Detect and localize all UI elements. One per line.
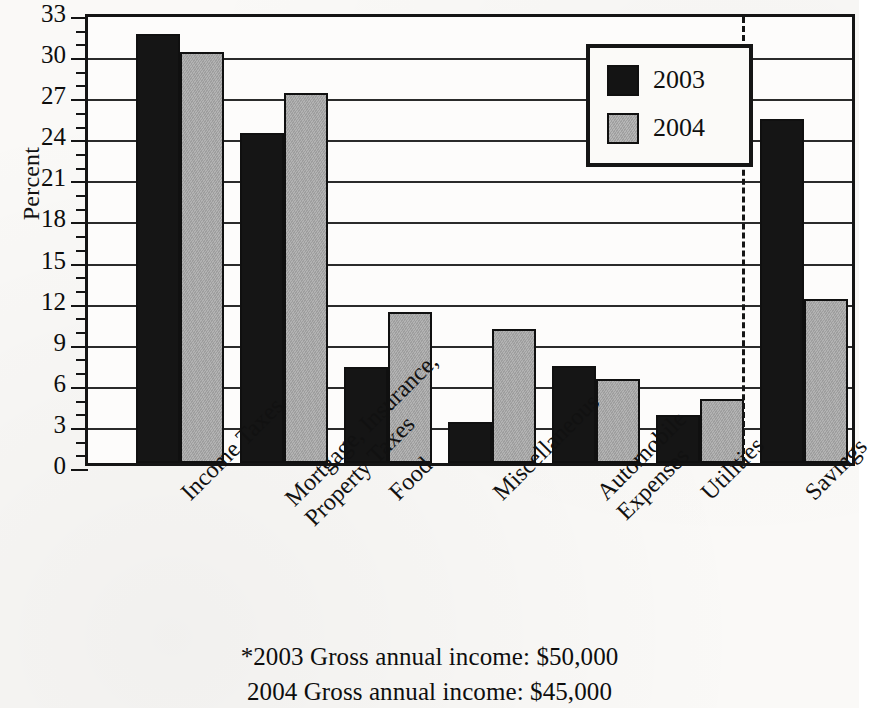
minor-tickmark (76, 236, 88, 238)
plot-area: 2003 2004 (85, 14, 855, 466)
minor-tickmark (76, 332, 88, 334)
y-tick-label: 15 (20, 248, 66, 273)
legend-label-2003: 2003 (653, 67, 705, 93)
gray-square-icon (607, 113, 639, 144)
y-tick-label: 12 (20, 289, 66, 314)
y-tick-label: 18 (20, 206, 66, 231)
bar-2004-savings (804, 299, 848, 463)
y-tick-label: 30 (20, 42, 66, 67)
minor-tickmark (76, 401, 88, 403)
y-tick-label: 0 (20, 453, 66, 478)
major-tickmark (71, 305, 88, 307)
major-tickmark (71, 264, 88, 266)
black-square-icon (607, 65, 639, 96)
minor-tickmark (76, 318, 88, 320)
bar-2003-income-taxes (136, 34, 180, 463)
major-tickmark (71, 17, 88, 19)
minor-tickmark (76, 455, 88, 457)
y-tick-label: 33 (20, 1, 66, 26)
y-tick-label: 3 (20, 412, 66, 437)
minor-tickmark (76, 250, 88, 252)
minor-tickmark (76, 72, 88, 74)
minor-tickmark (76, 168, 88, 170)
minor-tickmark (76, 154, 88, 156)
major-tickmark (71, 99, 88, 101)
major-tickmark (71, 140, 88, 142)
minor-tickmark (76, 195, 88, 197)
minor-tickmark (76, 373, 88, 375)
minor-tickmark (76, 359, 88, 361)
minor-tickmark (76, 209, 88, 211)
footnote-line: *2003 Gross annual income: $50,000 (0, 640, 859, 675)
footnote: *2003 Gross annual income: $50,0002004 G… (0, 640, 859, 708)
minor-tickmark (76, 277, 88, 279)
bar-2003-savings (760, 119, 804, 463)
major-tickmark (71, 222, 88, 224)
major-tickmark (71, 181, 88, 183)
y-tick-label: 6 (20, 371, 66, 396)
minor-tickmark (76, 414, 88, 416)
legend-label-2004: 2004 (653, 115, 705, 141)
minor-tickmark (76, 113, 88, 115)
minor-tickmark (76, 31, 88, 33)
minor-tickmark (76, 44, 88, 46)
y-tick-label: 9 (20, 330, 66, 355)
footnote-line: 2004 Gross annual income: $45,000 (0, 675, 859, 708)
bar-2003-miscellaneous (448, 422, 492, 463)
legend-item-2004: 2004 (607, 110, 705, 146)
major-tickmark (71, 346, 88, 348)
minor-tickmark (76, 85, 88, 87)
bar-2004-income-taxes (180, 52, 224, 463)
y-tick-label: 21 (20, 165, 66, 190)
major-tickmark (71, 58, 88, 60)
major-tickmark (71, 428, 88, 430)
legend-item-2003: 2003 (607, 62, 705, 98)
minor-tickmark (76, 127, 88, 129)
legend: 2003 2004 (586, 44, 753, 167)
major-tickmark (71, 469, 88, 471)
y-tick-label: 24 (20, 124, 66, 149)
bar-2004-mortgage-insurance-property-taxes (284, 93, 328, 463)
minor-tickmark (76, 291, 88, 293)
y-tick-label: 27 (20, 83, 66, 108)
major-tickmark (71, 387, 88, 389)
minor-tickmark (76, 442, 88, 444)
